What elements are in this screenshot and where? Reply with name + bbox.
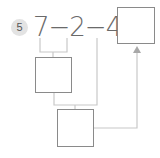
result-answer-box[interactable]: [117, 7, 155, 44]
step1-answer-box[interactable]: [35, 57, 72, 93]
arrow-up-icon: [133, 46, 141, 53]
step2-answer-box[interactable]: [57, 109, 94, 147]
problem-number-badge: 5: [11, 19, 28, 36]
